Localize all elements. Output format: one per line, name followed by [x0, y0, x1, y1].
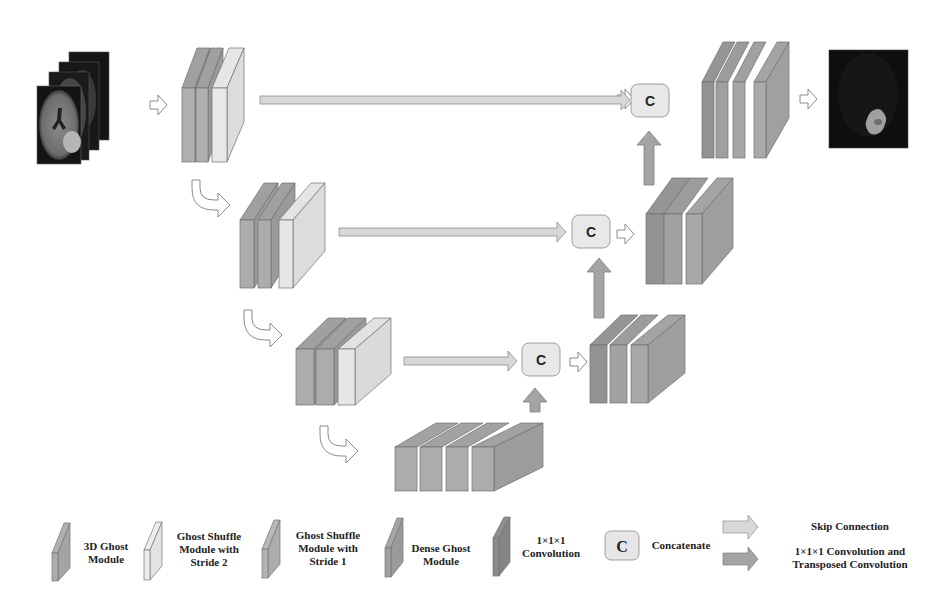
curved-arrow-icon	[320, 426, 358, 463]
encoder-level-3	[296, 318, 391, 405]
legend-label-ghost-3d: 3D Ghost Module	[76, 540, 136, 566]
output-arrow-icon	[800, 89, 817, 109]
svg-text:C: C	[586, 224, 596, 240]
decoder-level-1	[702, 42, 789, 158]
legend-label-ghost-shuffle-s2: Ghost Shuffle Module with Stride 2	[168, 530, 250, 569]
curved-arrow-icon	[244, 310, 282, 347]
legend-label-conv-1x1x1: 1×1×1 Convolution	[516, 534, 586, 560]
decoder2-arrow-icon	[617, 224, 634, 244]
output-segmentation-map	[829, 50, 908, 148]
concat-node-level-1: C	[631, 84, 669, 117]
svg-text:C: C	[645, 93, 655, 109]
decoder-level-2	[646, 178, 733, 284]
input-arrow-icon	[150, 95, 167, 115]
legend-label-skip-connection: Skip Connection	[770, 520, 930, 533]
svg-text:C: C	[616, 538, 628, 555]
up-arrow-level-3	[523, 388, 547, 412]
concat-node-level-2: C	[572, 215, 610, 248]
legend-ghost-shuffle-s2-icon	[144, 522, 162, 580]
skip-arrow-level-1	[260, 90, 630, 110]
architecture-diagram: C C C	[0, 0, 946, 609]
concat-node-level-3: C	[522, 343, 560, 376]
legend-label-concatenate: Concatenate	[645, 539, 717, 552]
decoder3-arrow-icon	[570, 352, 587, 372]
svg-text:C: C	[536, 352, 546, 368]
skip-arrow-level-3	[404, 351, 517, 371]
legend-label-conv-transposed: 1×1×1 Convolution and Transposed Convolu…	[765, 545, 935, 571]
legend-skip-arrow-icon	[723, 515, 758, 539]
legend-label-dense-ghost: Dense Ghost Module	[405, 542, 477, 568]
curved-arrow-icon	[192, 180, 230, 217]
encoder-level-1	[182, 48, 244, 162]
legend-conv-1x1x1-icon	[493, 517, 510, 576]
up-arrow-level-1	[637, 131, 661, 185]
skip-arrow-level-2	[339, 222, 566, 242]
bottleneck-block	[395, 423, 543, 491]
legend-conv-arrow-icon	[723, 547, 758, 571]
input-mri-stack	[37, 52, 109, 164]
decoder-level-3	[590, 315, 685, 403]
legend-dense-ghost-icon	[385, 518, 403, 577]
legend-label-ghost-shuffle-s1: Ghost Shuffle Module with Stride 1	[287, 529, 369, 568]
up-arrow-level-2	[587, 258, 611, 318]
legend-ghost-shuffle-s1-icon	[262, 520, 280, 578]
legend-ghost-3d-icon	[52, 523, 70, 581]
encoder-level-2	[240, 183, 325, 288]
legend-concat-icon: C	[605, 531, 639, 560]
